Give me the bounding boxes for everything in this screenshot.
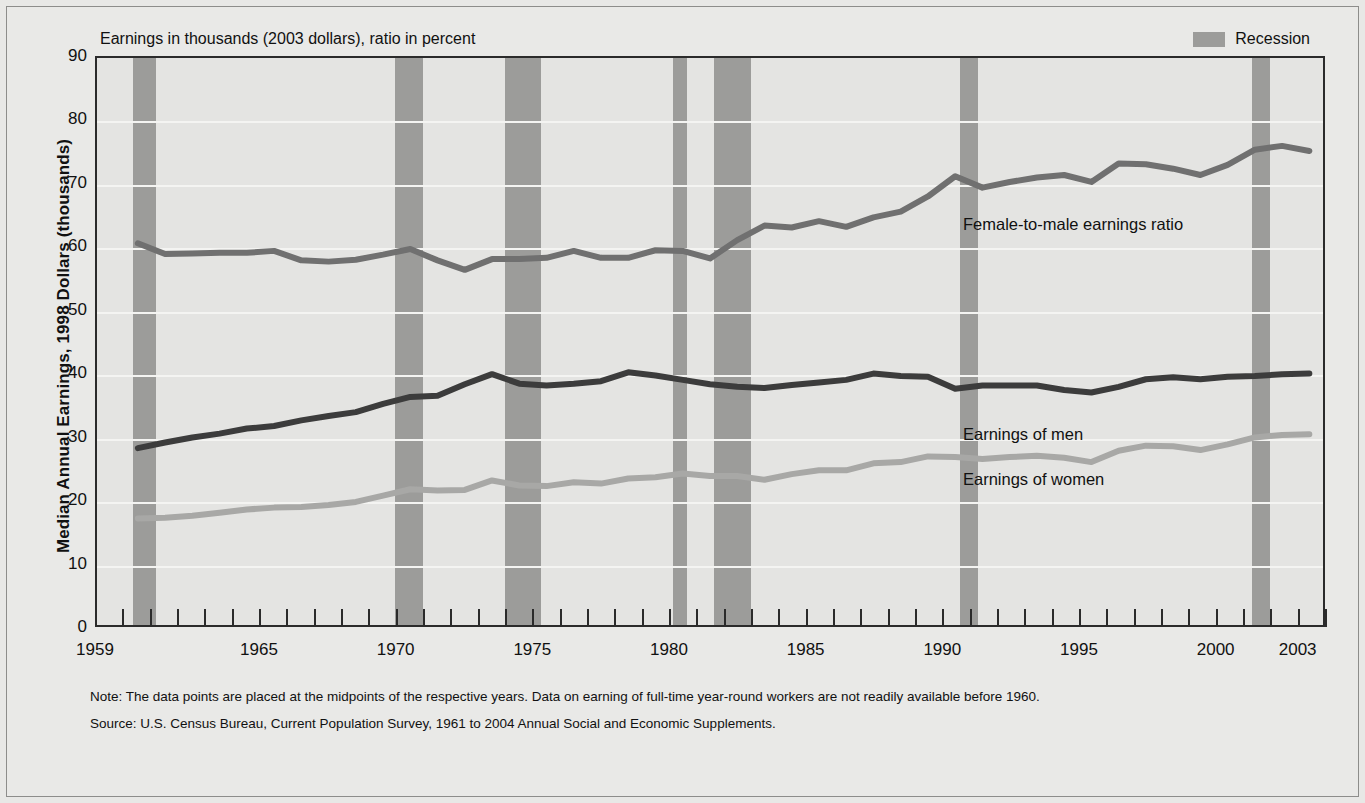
x-axis-tick [669, 609, 671, 627]
x-axis-tick [1325, 609, 1327, 627]
x-axis-tick [232, 609, 234, 627]
x-axis-tick [724, 609, 726, 627]
footnotes: Note: The data points are placed at the … [90, 688, 1290, 742]
chart-subtitle: Earnings in thousands (2003 dollars), ra… [100, 30, 475, 48]
footnote: Source: U.S. Census Bureau, Current Popu… [90, 715, 1290, 733]
y-axis-tick-label: 50 [47, 300, 87, 320]
y-axis-tick-label: 20 [47, 490, 87, 510]
x-axis-tick [450, 609, 452, 627]
x-axis-tick-labels: 1959196519701975198019851990199520002003 [95, 640, 1325, 668]
x-axis-tick [259, 609, 261, 627]
x-axis-tick [204, 609, 206, 627]
x-axis-tick-label: 1975 [513, 640, 551, 660]
plot-wrapper: Female-to-male earnings ratioEarnings of… [95, 56, 1325, 627]
y-axis-tick-label: 90 [47, 46, 87, 66]
x-axis-tick-label: 2003 [1279, 640, 1317, 660]
plot-area [95, 56, 1325, 627]
x-axis-ticks [95, 627, 1325, 637]
x-axis-tick [1243, 609, 1245, 627]
x-axis-tick [396, 609, 398, 627]
series-line [138, 434, 1309, 518]
x-axis-tick [505, 609, 507, 627]
series-annotation: Earnings of women [963, 470, 1104, 489]
y-axis-tick-label: 70 [47, 173, 87, 193]
x-axis-tick [1024, 609, 1026, 627]
x-axis-tick [286, 609, 288, 627]
x-axis-tick [95, 609, 97, 627]
x-axis-tick [1216, 609, 1218, 627]
x-axis-tick [888, 609, 890, 627]
x-axis-tick-label: 1980 [650, 640, 688, 660]
x-axis-tick [1079, 609, 1081, 627]
x-axis-tick [751, 609, 753, 627]
x-axis-tick [314, 609, 316, 627]
footnote: Note: The data points are placed at the … [90, 688, 1290, 706]
x-axis-tick [122, 609, 124, 627]
x-axis-tick [341, 609, 343, 627]
x-axis-tick-label: 2000 [1197, 640, 1235, 660]
x-axis-tick-label: 1985 [787, 640, 825, 660]
x-axis-tick [478, 609, 480, 627]
x-axis-tick [368, 609, 370, 627]
x-axis-tick-label: 1970 [377, 640, 415, 660]
x-axis-tick [1134, 609, 1136, 627]
x-axis-tick [833, 609, 835, 627]
y-axis-tick-labels: 0102030405060708090 [43, 56, 87, 627]
x-axis-tick-label: 1995 [1060, 640, 1098, 660]
series-line [138, 146, 1309, 270]
y-axis-tick-label: 10 [47, 554, 87, 574]
series-line [138, 372, 1309, 448]
y-axis-tick-label: 40 [47, 363, 87, 383]
x-axis-tick [642, 609, 644, 627]
x-axis-tick [942, 609, 944, 627]
y-axis-tick-label: 0 [47, 617, 87, 637]
recession-swatch-icon [1193, 32, 1225, 47]
x-axis-tick [970, 609, 972, 627]
chart-page: Earnings in thousands (2003 dollars), ra… [0, 0, 1365, 803]
x-axis-tick [614, 609, 616, 627]
y-axis-tick-label: 80 [47, 109, 87, 129]
x-axis-tick [150, 609, 152, 627]
x-axis-tick [1188, 609, 1190, 627]
x-axis-tick [1052, 609, 1054, 627]
x-axis-tick [806, 609, 808, 627]
x-axis-tick [1161, 609, 1163, 627]
x-axis-tick [915, 609, 917, 627]
legend: Recession [1193, 30, 1310, 48]
x-axis-tick [423, 609, 425, 627]
series-annotation: Earnings of men [963, 425, 1083, 444]
series-lines [97, 58, 1323, 627]
x-axis-tick [1106, 609, 1108, 627]
x-axis-tick [997, 609, 999, 627]
y-axis-tick-label: 60 [47, 236, 87, 256]
x-axis-tick [696, 609, 698, 627]
x-axis-tick [587, 609, 589, 627]
x-axis-tick [532, 609, 534, 627]
y-axis-tick-label: 30 [47, 427, 87, 447]
x-axis-tick [860, 609, 862, 627]
x-axis-tick [778, 609, 780, 627]
x-axis-tick-label: 1965 [240, 640, 278, 660]
x-axis-tick-label: 1990 [923, 640, 961, 660]
legend-label-recession: Recession [1235, 30, 1310, 48]
x-axis-tick [1298, 609, 1300, 627]
x-axis-tick [560, 609, 562, 627]
series-annotation: Female-to-male earnings ratio [963, 215, 1183, 234]
x-axis-tick-label: 1959 [76, 640, 114, 660]
x-axis-tick [1270, 609, 1272, 627]
x-axis-tick [177, 609, 179, 627]
